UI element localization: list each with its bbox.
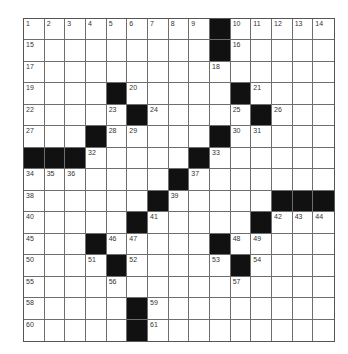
grid-cell[interactable] — [65, 40, 86, 61]
grid-cell[interactable] — [86, 191, 107, 212]
grid-cell[interactable] — [189, 83, 210, 104]
grid-cell[interactable]: 8 — [169, 19, 190, 40]
grid-cell[interactable] — [293, 255, 314, 276]
grid-cell[interactable]: 53 — [210, 255, 231, 276]
grid-cell[interactable] — [86, 40, 107, 61]
grid-cell[interactable]: 58 — [24, 298, 45, 319]
grid-cell[interactable] — [293, 148, 314, 169]
grid-cell[interactable]: 36 — [65, 169, 86, 190]
grid-cell[interactable]: 47 — [127, 234, 148, 255]
grid-cell[interactable] — [210, 320, 231, 341]
grid-cell[interactable] — [251, 62, 272, 83]
grid-cell[interactable] — [293, 105, 314, 126]
grid-cell[interactable]: 28 — [107, 126, 128, 147]
grid-cell[interactable] — [45, 255, 66, 276]
grid-cell[interactable] — [148, 277, 169, 298]
grid-cell[interactable] — [148, 255, 169, 276]
grid-cell[interactable]: 55 — [24, 277, 45, 298]
grid-cell[interactable] — [169, 255, 190, 276]
grid-cell[interactable]: 54 — [251, 255, 272, 276]
grid-cell[interactable] — [45, 62, 66, 83]
grid-cell[interactable] — [86, 169, 107, 190]
grid-cell[interactable]: 31 — [251, 126, 272, 147]
grid-cell[interactable] — [313, 62, 334, 83]
grid-cell[interactable]: 11 — [251, 19, 272, 40]
grid-cell[interactable] — [107, 298, 128, 319]
grid-cell[interactable] — [293, 298, 314, 319]
grid-cell[interactable] — [313, 298, 334, 319]
grid-cell[interactable]: 7 — [148, 19, 169, 40]
grid-cell[interactable] — [65, 277, 86, 298]
grid-cell[interactable] — [86, 277, 107, 298]
grid-cell[interactable] — [45, 105, 66, 126]
grid-cell[interactable]: 32 — [86, 148, 107, 169]
grid-cell[interactable] — [65, 126, 86, 147]
grid-cell[interactable] — [189, 277, 210, 298]
grid-cell[interactable]: 44 — [313, 212, 334, 233]
grid-cell[interactable] — [107, 40, 128, 61]
grid-cell[interactable] — [231, 320, 252, 341]
grid-cell[interactable]: 38 — [24, 191, 45, 212]
grid-cell[interactable] — [65, 212, 86, 233]
grid-cell[interactable] — [272, 320, 293, 341]
grid-cell[interactable]: 15 — [24, 40, 45, 61]
grid-cell[interactable]: 51 — [86, 255, 107, 276]
grid-cell[interactable]: 30 — [231, 126, 252, 147]
grid-cell[interactable] — [272, 298, 293, 319]
grid-cell[interactable] — [107, 191, 128, 212]
grid-cell[interactable] — [169, 105, 190, 126]
grid-cell[interactable] — [169, 212, 190, 233]
grid-cell[interactable] — [169, 234, 190, 255]
grid-cell[interactable] — [86, 83, 107, 104]
grid-cell[interactable] — [169, 277, 190, 298]
grid-cell[interactable] — [189, 105, 210, 126]
grid-cell[interactable] — [189, 62, 210, 83]
grid-cell[interactable]: 40 — [24, 212, 45, 233]
grid-cell[interactable] — [272, 126, 293, 147]
grid-cell[interactable] — [272, 277, 293, 298]
grid-cell[interactable] — [231, 212, 252, 233]
grid-cell[interactable]: 1 — [24, 19, 45, 40]
grid-cell[interactable] — [148, 40, 169, 61]
grid-cell[interactable] — [148, 62, 169, 83]
grid-cell[interactable] — [127, 191, 148, 212]
grid-cell[interactable] — [251, 320, 272, 341]
grid-cell[interactable] — [293, 126, 314, 147]
grid-cell[interactable] — [86, 298, 107, 319]
grid-cell[interactable] — [65, 191, 86, 212]
grid-cell[interactable] — [231, 62, 252, 83]
grid-cell[interactable]: 12 — [272, 19, 293, 40]
grid-cell[interactable]: 39 — [169, 191, 190, 212]
grid-cell[interactable] — [313, 277, 334, 298]
grid-cell[interactable] — [210, 105, 231, 126]
grid-cell[interactable]: 16 — [231, 40, 252, 61]
grid-cell[interactable] — [86, 105, 107, 126]
grid-cell[interactable] — [107, 212, 128, 233]
grid-cell[interactable] — [272, 255, 293, 276]
grid-cell[interactable] — [313, 169, 334, 190]
grid-cell[interactable] — [127, 277, 148, 298]
grid-cell[interactable]: 46 — [107, 234, 128, 255]
grid-cell[interactable] — [313, 40, 334, 61]
grid-cell[interactable]: 13 — [293, 19, 314, 40]
grid-cell[interactable]: 37 — [189, 169, 210, 190]
grid-cell[interactable]: 61 — [148, 320, 169, 341]
grid-cell[interactable] — [293, 320, 314, 341]
grid-cell[interactable] — [210, 169, 231, 190]
grid-cell[interactable] — [45, 126, 66, 147]
grid-cell[interactable] — [189, 191, 210, 212]
grid-cell[interactable]: 45 — [24, 234, 45, 255]
grid-cell[interactable] — [210, 83, 231, 104]
grid-cell[interactable] — [210, 212, 231, 233]
grid-cell[interactable] — [127, 40, 148, 61]
grid-cell[interactable] — [45, 212, 66, 233]
grid-cell[interactable]: 52 — [127, 255, 148, 276]
grid-cell[interactable] — [313, 320, 334, 341]
grid-cell[interactable] — [127, 62, 148, 83]
grid-cell[interactable] — [65, 105, 86, 126]
grid-cell[interactable] — [148, 169, 169, 190]
grid-cell[interactable] — [210, 277, 231, 298]
grid-cell[interactable] — [189, 126, 210, 147]
grid-cell[interactable] — [313, 234, 334, 255]
grid-cell[interactable]: 22 — [24, 105, 45, 126]
